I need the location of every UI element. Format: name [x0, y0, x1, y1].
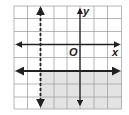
origin-label: O — [69, 46, 78, 58]
x-axis-label: x — [111, 46, 119, 58]
shaded-region — [41, 71, 122, 109]
y-axis-label: y — [82, 5, 90, 17]
coordinate-plane: y x O — [0, 0, 129, 115]
